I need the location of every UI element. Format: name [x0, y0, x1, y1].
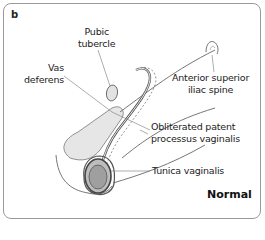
pubic-tubercle-shape	[105, 84, 119, 102]
body-outline-lower	[113, 145, 205, 183]
label-line: Pubic	[78, 26, 115, 38]
condition-label: Normal	[207, 188, 252, 201]
label-line: Anterior superior	[172, 72, 249, 84]
testis-shape	[89, 165, 107, 189]
leader-obliterated-pv	[140, 130, 148, 134]
label-line: Obliterated patent	[151, 121, 240, 133]
label-line: Vas	[24, 62, 64, 74]
leader-asis	[212, 55, 214, 72]
asis-shape	[206, 41, 218, 54]
leader-vas-deferens	[64, 76, 112, 112]
label-obliterated-processus-vaginalis: Obliterated patent processus vaginalis	[151, 121, 240, 145]
label-line: processus vaginalis	[151, 133, 240, 145]
label-vas-deferens: Vas deferens	[24, 62, 64, 86]
label-line: tubercle	[78, 38, 115, 50]
label-line: iliac spine	[172, 84, 249, 96]
label-anterior-superior-iliac-spine: Anterior superior iliac spine	[172, 72, 249, 96]
label-pubic-tubercle: Pubic tubercle	[78, 26, 115, 50]
label-line: deferens	[24, 74, 64, 86]
leader-pubic-tubercle	[98, 50, 110, 86]
label-tunica-vaginalis: Tunica vaginalis	[152, 165, 224, 177]
